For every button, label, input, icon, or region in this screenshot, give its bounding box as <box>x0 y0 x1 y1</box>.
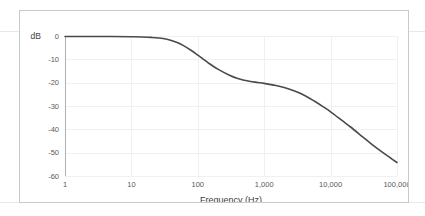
y-tick-label: 0 <box>55 32 59 41</box>
y-tick-label: -20 <box>48 78 59 87</box>
x-tick-label: 10,000 <box>319 180 342 189</box>
frequency-response-curve <box>65 36 397 162</box>
y-axis-unit-label: dB <box>31 31 42 41</box>
x-axis-title: Frequency (Hz) <box>200 195 262 202</box>
x-tick-label: 1,000 <box>255 180 274 189</box>
y-axis-tick-labels: 0-10-20-30-40-50-60 <box>48 32 59 181</box>
y-tick-label: -30 <box>48 102 59 111</box>
y-tick-label: -50 <box>48 148 59 157</box>
x-tick-label: 1 <box>63 180 67 189</box>
x-axis-tick-labels: 1101001,00010,000100,000 <box>63 180 408 189</box>
chart-figure-frame: 0-10-20-30-40-50-60 1101001,00010,000100… <box>19 10 409 203</box>
frequency-response-chart: 0-10-20-30-40-50-60 1101001,00010,000100… <box>20 11 408 202</box>
x-tick-label: 100 <box>192 180 205 189</box>
x-tick-label: 100,000 <box>383 180 408 189</box>
y-tick-label: -60 <box>48 172 59 181</box>
y-tick-label: -10 <box>48 55 59 64</box>
x-tick-label: 10 <box>127 180 135 189</box>
horizontal-gridlines <box>65 37 397 177</box>
y-tick-label: -40 <box>48 125 59 134</box>
